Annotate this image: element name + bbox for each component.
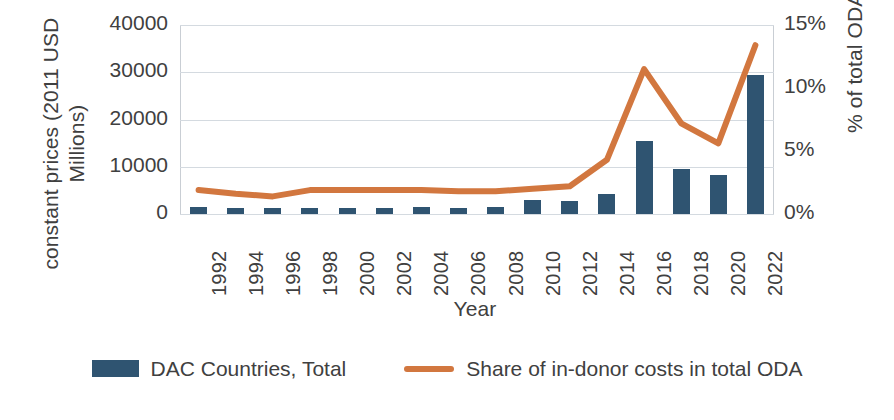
x-axis-tick-label: 2008 (505, 251, 528, 296)
bar-swatch-icon (92, 360, 139, 377)
y-axis-right-tick-label: 5% (784, 137, 814, 161)
y-axis-left-tick-label: 30000 (48, 58, 168, 82)
legend-entry-dac-countries-total[interactable]: DAC Countries, Total (92, 358, 347, 379)
x-axis-tick-label: 2004 (430, 251, 453, 296)
x-axis-tick-label: 2016 (653, 251, 676, 296)
x-axis-tick-label: 1996 (282, 251, 305, 296)
x-axis-tick-label: 2000 (356, 251, 379, 296)
x-axis-tick-label: 1998 (319, 251, 342, 296)
x-axis-tick-label: 2002 (393, 251, 416, 296)
y-axis-right-tick-label: 10% (784, 74, 826, 98)
legend-label-share-of-in-donor-costs: Share of in-donor costs in total ODA (466, 358, 802, 379)
y-axis-left-tick-label: 0 (48, 200, 168, 224)
chart-container: constant prices (2011 USD Millions) % of… (0, 0, 894, 420)
x-axis-title: Year (170, 296, 780, 322)
y-axis-right-tick-label: 15% (784, 11, 826, 35)
x-axis-tick-label: 2014 (616, 251, 639, 296)
gridline (180, 214, 774, 215)
x-axis-tick-label: 2006 (467, 251, 490, 296)
y-axis-left-tick-label: 10000 (48, 153, 168, 177)
y-axis-left-title: constant prices (2011 USD Millions) (38, 0, 89, 294)
x-axis-tick-label: 2010 (542, 251, 565, 296)
line-swatch-icon (404, 366, 454, 372)
chart-legend: DAC Countries, Total Share of in-donor c… (0, 358, 894, 379)
plot-area (180, 25, 774, 214)
y-axis-left-tick-label: 20000 (48, 106, 168, 130)
x-axis-tick-label: 1992 (208, 251, 231, 296)
legend-label-dac-countries-total: DAC Countries, Total (151, 358, 347, 379)
x-axis-tick-label: 2018 (690, 251, 713, 296)
y-axis-left-tick-label: 40000 (48, 11, 168, 35)
x-axis-tick-label: 2020 (727, 251, 750, 296)
y-axis-right-tick-label: 0% (784, 200, 814, 224)
y-axis-right-title: % of total ODA (842, 0, 868, 178)
x-axis-tick-label: 1994 (245, 251, 268, 296)
legend-entry-share-of-in-donor-costs[interactable]: Share of in-donor costs in total ODA (404, 358, 802, 379)
x-axis-tick-label: 2012 (579, 251, 602, 296)
line-series-share-of-in-donor-costs (180, 25, 774, 214)
x-axis-tick-label: 2022 (764, 251, 787, 296)
